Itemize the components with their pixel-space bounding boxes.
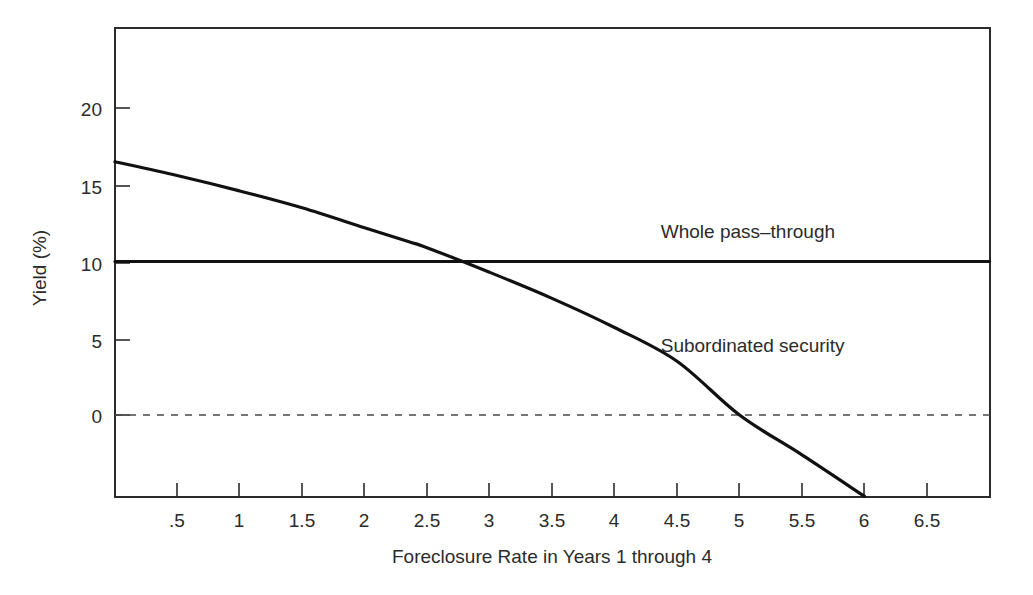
x-tick-label-1: 1 <box>234 510 245 531</box>
x-tick-label-0-5: .5 <box>169 510 185 531</box>
y-axis-tick-labels: 20 15 10 5 0 <box>81 99 102 427</box>
y-axis-title: Yield (%) <box>29 230 50 306</box>
x-tick-label-6: 6 <box>859 510 870 531</box>
x-tick-label-6-5: 6.5 <box>914 510 940 531</box>
x-tick-label-3: 3 <box>484 510 495 531</box>
annotation-whole-pass-through: Whole pass–through <box>661 221 835 242</box>
y-tick-label-10: 10 <box>81 254 102 275</box>
x-axis-tick-labels: .5 1 1.5 2 2.5 3 3.5 4 4.5 5 5.5 6 6.5 <box>169 510 940 531</box>
y-tick-label-15: 15 <box>81 177 102 198</box>
y-tick-label-5: 5 <box>91 331 102 352</box>
x-tick-label-5: 5 <box>734 510 745 531</box>
x-tick-label-4-5: 4.5 <box>664 510 690 531</box>
x-tick-label-5-5: 5.5 <box>789 510 815 531</box>
x-axis-ticks <box>177 483 927 497</box>
x-tick-label-2: 2 <box>359 510 370 531</box>
chart-canvas: 20 15 10 5 0 Yield (%) .5 1 <box>0 0 1033 595</box>
y-tick-label-0: 0 <box>91 406 102 427</box>
x-tick-label-2-5: 2.5 <box>414 510 440 531</box>
x-axis-title: Foreclosure Rate in Years 1 through 4 <box>392 546 712 567</box>
chart-figure: 20 15 10 5 0 Yield (%) .5 1 <box>0 0 1033 595</box>
x-tick-label-3-5: 3.5 <box>539 510 565 531</box>
series-line-subordinated-security <box>115 162 865 497</box>
x-tick-label-1-5: 1.5 <box>289 510 315 531</box>
y-tick-label-20: 20 <box>81 99 102 120</box>
x-tick-label-4: 4 <box>609 510 620 531</box>
annotation-subordinated-security: Subordinated security <box>661 335 845 356</box>
